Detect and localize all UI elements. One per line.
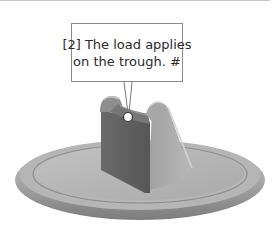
callout-text-line-2: on the trough. # — [73, 53, 181, 70]
load-point-marker — [124, 113, 133, 122]
callout-text-line-1: [2] The load applies — [62, 36, 191, 53]
callout-box: [2] The load applies on the trough. # — [71, 23, 183, 82]
